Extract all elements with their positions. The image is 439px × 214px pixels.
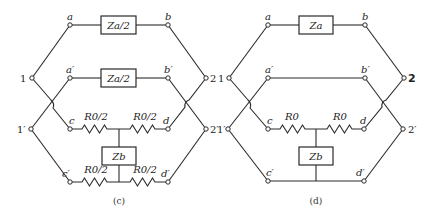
caption-d: (d) (310, 196, 323, 206)
resistor-r0-half-top-right (119, 125, 168, 133)
label-a: a (265, 11, 271, 22)
r0-half-top-right-label: R0/2 (132, 111, 157, 122)
node-c (266, 127, 270, 131)
label-bp: b′ (164, 64, 173, 75)
node-d (166, 127, 170, 131)
node-a (266, 23, 270, 27)
wire-1p-cp (228, 129, 268, 181)
node-cp (266, 179, 270, 183)
label-1p: 1′ (17, 124, 26, 135)
label-ap: a′ (265, 64, 274, 75)
label-dp: d′ (161, 168, 170, 179)
node-ap (266, 76, 270, 80)
node-ap (68, 76, 72, 80)
wire-b-2 (365, 25, 404, 78)
terminal-2p (401, 127, 405, 131)
node-dp (362, 179, 366, 183)
label-c: c (69, 115, 75, 126)
r0-half-top-left-label: R0/2 (83, 111, 108, 122)
label-2p: 2′ (408, 124, 417, 135)
node-bp (166, 76, 170, 80)
r0-right-label: R0 (332, 111, 348, 122)
terminal-1 (227, 76, 231, 80)
label-2: 2 (408, 72, 416, 85)
wire-dp-2p (364, 129, 403, 181)
label-cp: c′ (266, 167, 275, 178)
r0-half-bottom-right-label: R0/2 (132, 164, 157, 175)
zb-label: Zb (111, 151, 125, 162)
terminal-1p (29, 127, 33, 131)
node-a (68, 23, 72, 27)
label-d: d (360, 115, 366, 126)
wire-dp-2p (168, 129, 206, 182)
resistor-r0-left (268, 125, 316, 133)
label-c: c (267, 115, 273, 126)
label-d: d (163, 115, 169, 126)
node-b (363, 23, 367, 27)
circuit-diagram: Za/2 Za/2 R0/2 R0/2 Zb R0/2 R0/2 (0, 0, 439, 214)
label-1p: 1′ (217, 124, 226, 135)
label-1: 1 (20, 73, 26, 84)
za-half-top-label: Za/2 (106, 20, 130, 31)
resistor-r0-half-top-left (70, 125, 119, 133)
za-label: Za (309, 20, 323, 31)
label-b: b (362, 11, 368, 22)
r0-half-bottom-left-label: R0/2 (83, 164, 108, 175)
node-c (68, 127, 72, 131)
terminal-2 (204, 76, 208, 80)
terminal-1 (30, 76, 34, 80)
terminal-1p (226, 127, 230, 131)
label-a: a (67, 11, 73, 22)
panel-c: Za/2 Za/2 R0/2 R0/2 Zb R0/2 R0/2 (17, 11, 219, 206)
label-b: b (165, 11, 171, 22)
terminal-2 (402, 76, 406, 80)
node-b (166, 23, 170, 27)
resistor-r0-half-bottom-left (70, 178, 119, 186)
resistor-r0-right (316, 125, 364, 133)
label-2: 2 (210, 73, 216, 84)
node-d (362, 127, 366, 131)
node-cp (68, 180, 72, 184)
label-ap: a′ (66, 64, 75, 75)
label-bp: b′ (361, 64, 370, 75)
label-dp: d′ (356, 167, 365, 178)
panel-d: Za R0 R0 Zb 1 (217, 11, 417, 206)
wire-1-a (32, 25, 70, 78)
label-cp: c′ (62, 168, 71, 179)
node-bp (363, 76, 367, 80)
wire-b-2 (168, 25, 206, 78)
node-dp (166, 180, 170, 184)
za-half-lower-label: Za/2 (106, 73, 130, 84)
resistor-r0-half-bottom-right (119, 178, 168, 186)
wire-1-a (229, 25, 268, 78)
label-1: 1 (218, 73, 224, 84)
caption-c: (c) (113, 196, 125, 206)
terminal-2p (204, 127, 208, 131)
r0-left-label: R0 (284, 111, 300, 122)
zb-label: Zb (308, 151, 322, 162)
